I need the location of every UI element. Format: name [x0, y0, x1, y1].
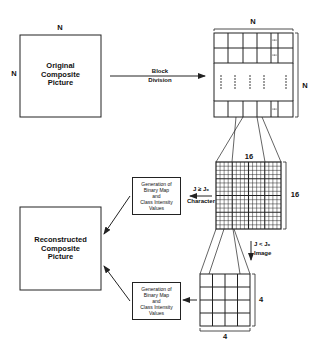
- title-line: Picture: [20, 79, 101, 88]
- block-division-label: Block Division: [140, 67, 180, 86]
- generation-box-bottom: Generation of Binary Map and Class Inten…: [132, 282, 181, 320]
- character-block-grid: [216, 162, 281, 229]
- image-grid-dim-bottom: 4: [220, 333, 230, 342]
- label-line: Block: [140, 67, 180, 76]
- block-division-grid: [214, 33, 293, 117]
- char-grid-right-bracket: [283, 162, 286, 229]
- image-condition-label: Image: [254, 250, 276, 257]
- block-grid-dim-top: N: [248, 18, 258, 27]
- generation-box-top: Generation of Binary Map and Class Inten…: [132, 177, 181, 215]
- block-grid-top-bracket: [214, 29, 293, 31]
- character-condition: J ≥ J₀: [188, 186, 214, 193]
- original-dim-left: N: [10, 70, 18, 79]
- image-grid-dim-right: 4: [257, 296, 265, 305]
- bottom-generation-to-reconstructed-arrow: [104, 266, 130, 301]
- zoom-fan-lines-bottom: [200, 229, 250, 274]
- label-line: Division: [140, 76, 180, 85]
- reconstructed-picture-title: Reconstructed Composite Picture: [20, 236, 101, 262]
- vertical-ellipsis-dots: [220, 75, 287, 89]
- box-line: Values: [140, 205, 173, 211]
- char-grid-dim-top: 16: [242, 153, 256, 162]
- top-generation-to-reconstructed-arrow: [104, 196, 130, 234]
- title-line: Picture: [20, 253, 101, 262]
- box-line: Values: [140, 310, 173, 316]
- image-grid-right-bracket: [252, 274, 255, 326]
- original-picture-title: Original Composite Picture: [20, 62, 101, 88]
- character-condition-label: Character: [186, 198, 216, 205]
- original-dim-top: N: [55, 24, 65, 33]
- char-grid-dim-right: 16: [288, 191, 302, 200]
- block-grid-dim-right: N: [300, 82, 310, 91]
- image-condition: J < J₀: [254, 241, 276, 248]
- ellipsis-dots: [272, 39, 276, 109]
- block-grid-right-bracket: [295, 33, 298, 117]
- image-block-grid: [200, 274, 250, 326]
- image-grid-bottom-bracket: [200, 328, 250, 331]
